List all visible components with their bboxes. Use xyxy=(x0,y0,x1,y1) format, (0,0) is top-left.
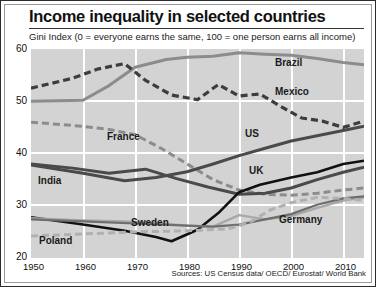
series-label-poland: Poland xyxy=(39,235,72,246)
x-tick-1960: 1960 xyxy=(75,261,96,272)
y-tick-30: 30 xyxy=(3,199,27,210)
y-tick-60: 60 xyxy=(3,43,27,54)
series-line-mexico xyxy=(31,64,364,128)
series-lines xyxy=(31,49,364,258)
y-tick-40: 40 xyxy=(3,147,27,158)
plot-area: Brazil Mexico US UK France India Sweden … xyxy=(31,49,364,258)
page-title: Income inequality in selected countries xyxy=(29,7,325,26)
chart-subtitle: Gini Index (0 = everyone earns the same,… xyxy=(29,31,355,42)
series-label-sweden: Sweden xyxy=(131,217,169,228)
series-label-india: India xyxy=(38,175,61,186)
series-label-france: France xyxy=(107,131,140,142)
chart-figure: Income inequality in selected countries … xyxy=(0,0,376,287)
series-label-us: US xyxy=(245,128,259,139)
series-label-mexico: Mexico xyxy=(275,86,309,97)
series-label-germany: Germany xyxy=(279,214,322,225)
source-note: Sources: US Census data/ OECD/ Eurostat/… xyxy=(172,269,366,278)
series-label-brazil: Brazil xyxy=(275,57,302,68)
series-label-uk: UK xyxy=(249,165,263,176)
series-line-brazil xyxy=(31,53,364,102)
x-tick-1950: 1950 xyxy=(23,261,44,272)
y-tick-50: 50 xyxy=(3,95,27,106)
x-tick-1970: 1970 xyxy=(127,261,148,272)
title-divider xyxy=(29,28,364,29)
